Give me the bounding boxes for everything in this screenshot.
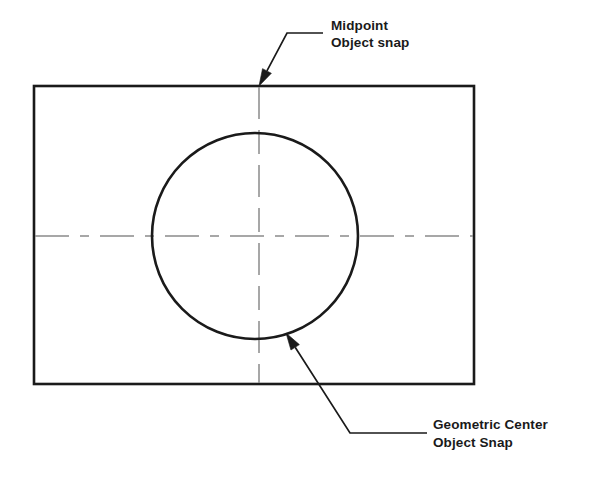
geometric-center-label-line1: Geometric Center bbox=[433, 417, 549, 432]
geometric-center-label-line2: Object Snap bbox=[433, 435, 513, 450]
midpoint-label-line1: Midpoint bbox=[331, 18, 388, 33]
technical-drawing-canvas: Midpoint Object snap Geometric Center Ob… bbox=[0, 0, 597, 480]
midpoint-label-line2: Object snap bbox=[331, 35, 409, 50]
canvas-background bbox=[0, 0, 597, 480]
